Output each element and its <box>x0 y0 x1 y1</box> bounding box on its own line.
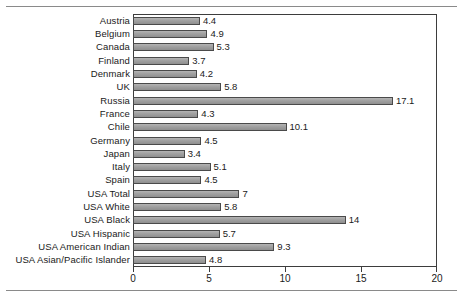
bars-layer: 4.44.95.33.74.25.817.14.310.14.53.45.14.… <box>133 14 437 267</box>
x-axis-tick <box>285 267 286 272</box>
x-axis-tick-label: 15 <box>341 273 381 284</box>
bar <box>133 97 393 105</box>
bar-value-label: 5.1 <box>214 162 227 172</box>
category-label: Denmark <box>2 69 130 79</box>
category-label: Austria <box>2 16 130 26</box>
category-label: USA Hispanic <box>2 229 130 239</box>
bar-chart: AustriaBelgiumCanadaFinlandDenmarkUKRuss… <box>0 0 463 303</box>
category-label: Spain <box>2 175 130 185</box>
bar <box>133 17 200 25</box>
category-label: Japan <box>2 149 130 159</box>
x-axis-tick <box>209 267 210 272</box>
category-label: Italy <box>2 162 130 172</box>
bar <box>133 163 211 171</box>
bar <box>133 230 220 238</box>
category-label: USA White <box>2 202 130 212</box>
bar-value-label: 17.1 <box>396 96 415 106</box>
bar-value-label: 4.2 <box>200 69 213 79</box>
bar <box>133 70 197 78</box>
bar-value-label: 5.3 <box>217 42 230 52</box>
bar <box>133 83 221 91</box>
x-axis-tick <box>361 267 362 272</box>
bar <box>133 256 206 264</box>
category-label: Germany <box>2 136 130 146</box>
x-axis-tick-label: 5 <box>189 273 229 284</box>
bar <box>133 110 198 118</box>
bar-value-label: 5.8 <box>224 202 237 212</box>
bar <box>133 30 207 38</box>
category-label: USA Total <box>2 189 130 199</box>
bar <box>133 176 201 184</box>
category-label: Belgium <box>2 29 130 39</box>
bar-value-label: 5.8 <box>224 82 237 92</box>
bar <box>133 43 214 51</box>
bar <box>133 137 201 145</box>
bar-value-label: 4.9 <box>210 29 223 39</box>
category-label: USA Asian/Pacific Islander <box>2 255 130 265</box>
bar-value-label: 10.1 <box>290 122 309 132</box>
category-label: Chile <box>2 122 130 132</box>
bar-value-label: 4.5 <box>204 175 217 185</box>
bar-value-label: 3.4 <box>188 149 201 159</box>
bar-value-label: 5.7 <box>223 229 236 239</box>
bar <box>133 57 189 65</box>
category-label: Russia <box>2 96 130 106</box>
bar <box>133 203 221 211</box>
category-label: USA Black <box>2 215 130 225</box>
category-label: Finland <box>2 56 130 66</box>
category-label: Canada <box>2 42 130 52</box>
bar-value-label: 3.7 <box>192 56 205 66</box>
x-axis-tick <box>436 267 437 272</box>
bar <box>133 243 274 251</box>
x-axis-tick-label: 20 <box>417 273 457 284</box>
bar <box>133 150 185 158</box>
bar-value-label: 4.3 <box>201 109 214 119</box>
bar <box>133 216 346 224</box>
bar <box>133 190 239 198</box>
bar-value-label: 4.8 <box>209 255 222 265</box>
x-axis-tick-label: 0 <box>113 273 153 284</box>
bar-value-label: 7 <box>242 189 247 199</box>
category-label: UK <box>2 82 130 92</box>
bar-value-label: 14 <box>349 215 360 225</box>
bar-value-label: 4.4 <box>203 16 216 26</box>
x-axis-tick-label: 10 <box>265 273 305 284</box>
category-label: USA American Indian <box>2 242 130 252</box>
category-label-column: AustriaBelgiumCanadaFinlandDenmarkUKRuss… <box>0 0 130 303</box>
category-label: France <box>2 109 130 119</box>
bar <box>133 123 287 131</box>
bar-value-label: 4.5 <box>204 136 217 146</box>
x-axis-tick <box>133 267 134 272</box>
bar-value-label: 9.3 <box>277 242 290 252</box>
